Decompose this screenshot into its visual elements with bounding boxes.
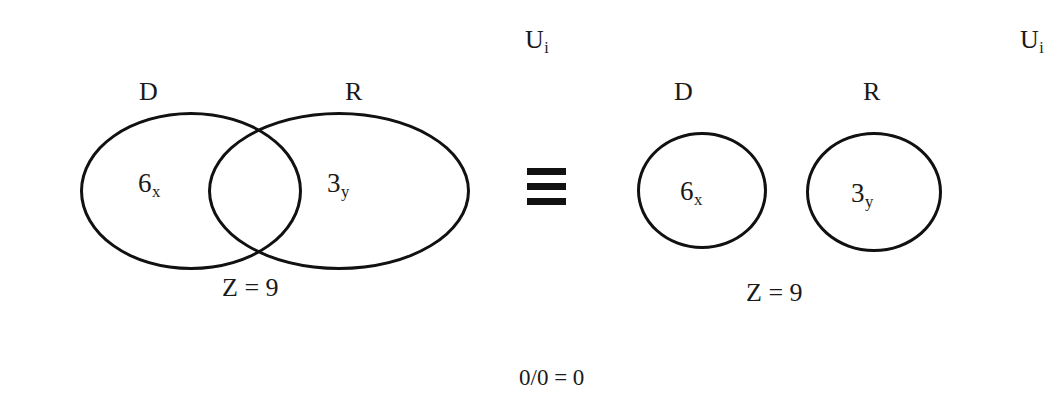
identical-to-bar-bottom <box>527 198 566 205</box>
venn-diagram-figure: D R 6x 3y Z = 9 Ui D R 6x 3y Z = 9 Ui 0/… <box>0 0 1059 412</box>
left-set-d-label: D <box>139 79 158 105</box>
left-set-r-label: R <box>345 79 362 105</box>
left-set-r-value: 3y <box>327 170 349 197</box>
left-universe-subscript: i <box>544 39 549 56</box>
right-set-d-label: D <box>674 79 693 105</box>
right-set-d-value: 6x <box>680 178 702 205</box>
identical-to-icon <box>527 168 566 206</box>
left-total-label: Z = 9 <box>222 275 279 301</box>
right-set-r-label: R <box>863 79 880 105</box>
left-set-r-value-subscript: y <box>341 182 350 201</box>
identical-to-bar-middle <box>527 183 566 190</box>
right-set-r-value-number: 3 <box>851 178 865 208</box>
left-set-d-value-subscript: x <box>152 182 161 201</box>
right-set-d-value-number: 6 <box>680 176 694 206</box>
left-universe-letter: U <box>525 25 544 54</box>
right-set-r-value: 3y <box>851 180 873 207</box>
right-set-r-circle <box>806 132 942 252</box>
right-set-r-value-subscript: y <box>865 192 874 211</box>
right-universe-subscript: i <box>1039 39 1044 56</box>
left-set-d-value-number: 6 <box>138 168 152 198</box>
right-universe-label: Ui <box>1020 27 1044 53</box>
right-total-label: Z = 9 <box>746 280 803 306</box>
identical-to-bar-top <box>527 168 566 175</box>
right-universe-rectangle <box>0 330 411 412</box>
right-set-d-value-subscript: x <box>694 190 703 209</box>
left-set-d-value: 6x <box>138 170 160 197</box>
left-universe-label: Ui <box>525 27 549 53</box>
right-universe-letter: U <box>1020 25 1039 54</box>
bottom-note: 0/0 = 0 <box>519 366 584 389</box>
left-set-r-value-number: 3 <box>327 168 341 198</box>
